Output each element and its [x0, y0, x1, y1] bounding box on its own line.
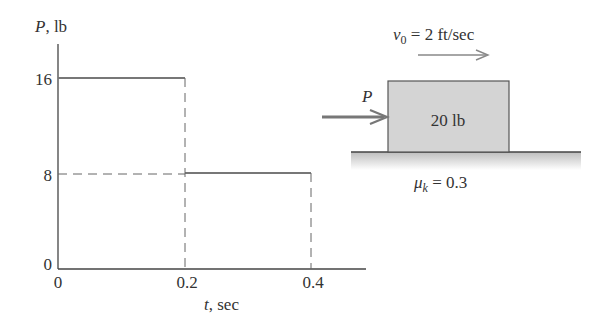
y-axis-label: P, lb: [34, 17, 67, 36]
tick-x02: 0.2: [176, 273, 197, 292]
block-diagram: v0 = 2 ft/sec 20 lb P μk = 0.3: [322, 25, 581, 195]
block-weight-label: 20 lb: [431, 111, 465, 130]
tick-x0: 0: [54, 273, 63, 292]
force-label: P: [361, 87, 372, 106]
tick-y8: 8: [44, 166, 53, 185]
friction-label: μk = 0.3: [413, 173, 467, 195]
force-arrow-icon: [322, 110, 387, 124]
x-axis-label: t, sec: [204, 295, 239, 314]
ground: [351, 152, 581, 170]
tick-y0: 0: [44, 255, 53, 274]
step-chart: 16 8 0 0 0.2 0.4 P, lb t, sec: [34, 17, 366, 314]
tick-x04: 0.4: [302, 273, 324, 292]
figure: 16 8 0 0 0.2 0.4 P, lb t, sec v0 = 2 ft/…: [0, 0, 616, 326]
velocity-arrow-icon: [418, 50, 488, 60]
velocity-label: v0 = 2 ft/sec: [393, 25, 475, 47]
tick-y16: 16: [35, 70, 52, 89]
